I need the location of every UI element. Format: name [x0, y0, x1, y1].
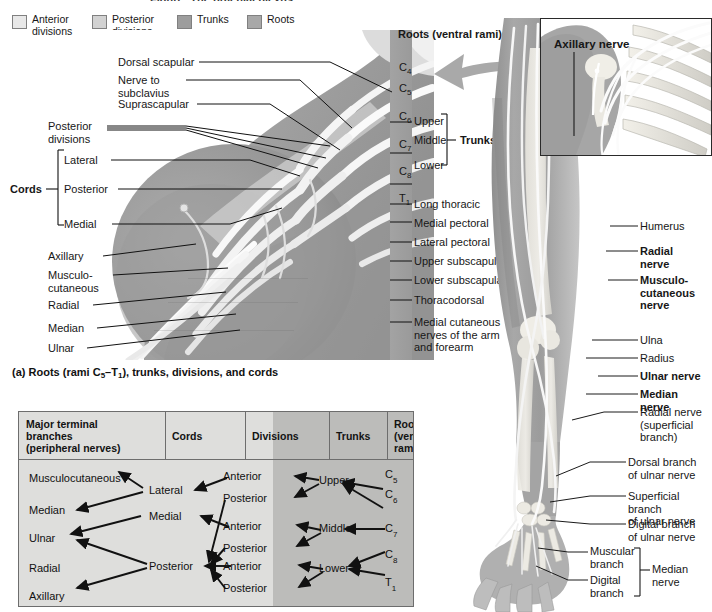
label-muscular-branch: Muscular branch — [590, 545, 635, 570]
root-c5: C5 — [399, 69, 411, 99]
node-axillary: Axillary — [29, 590, 64, 602]
trunk-middle: Middle — [414, 134, 446, 147]
label-radius: Radius — [640, 352, 674, 365]
node-medial-cord: Medial — [149, 510, 181, 522]
node-posterior-cord: Posterior — [149, 560, 193, 572]
node-root-c7: C7 — [385, 522, 397, 537]
node-trunk-upper: Upper — [319, 474, 349, 486]
legend-swatch-icon-anterior — [12, 15, 27, 29]
label-lateral-cord: Lateral — [64, 154, 98, 167]
root-c6-sub: 6 — [407, 116, 411, 125]
flowchart-arrows — [19, 412, 414, 607]
label-dorsal-branch-ulnar: Dorsal branch of ulnar nerve — [628, 456, 696, 481]
node-root-t1-base: T — [385, 576, 392, 588]
node-root-c7-sub: 7 — [393, 530, 397, 539]
root-t1-base: T — [399, 192, 406, 204]
node-root-c6-sub: 6 — [393, 496, 397, 505]
brachial-plexus-flowchart: Major terminal branches (peripheral nerv… — [18, 411, 414, 607]
caption-panel-a: (a) Roots (rami C5–T1), trunks, division… — [12, 366, 278, 378]
legend-label-anterior: Anterior divisions — [32, 14, 72, 37]
caption-a-prefix: (a) Roots (rami C — [12, 366, 101, 378]
node-musculocutaneous: Musculocutaneous — [29, 472, 121, 484]
node-root-c8-base: C — [385, 548, 393, 560]
node-lateral-cord: Lateral — [149, 484, 183, 496]
label-dorsal-scapular: Dorsal scapular — [118, 56, 194, 69]
node-division-anterior-2: Anterior — [223, 520, 262, 532]
label-ulnar-nerve: Ulnar nerve — [640, 370, 701, 383]
label-radial-nerve-superficial: Radial nerve (superficial branch) — [640, 406, 702, 444]
node-median: Median — [29, 504, 65, 516]
node-division-anterior-1: Anterior — [223, 470, 262, 482]
node-root-t1-sub: 1 — [392, 584, 396, 593]
legend-swatch-icon-roots — [247, 15, 262, 29]
node-root-c6-base: C — [385, 488, 393, 500]
label-radial: Radial — [48, 299, 79, 312]
node-root-c5-base: C — [385, 468, 393, 480]
label-humerus: Humerus — [640, 220, 685, 233]
root-c8: C8 — [399, 152, 411, 182]
legend-label-roots: Roots — [267, 14, 294, 26]
label-posterior-divisions: Posterior divisions — [48, 120, 92, 145]
node-root-c5-sub: 5 — [393, 476, 397, 485]
root-c7-base: C — [399, 138, 407, 150]
caption-a-sub2: 1 — [118, 371, 122, 380]
root-c7: C7 — [399, 125, 411, 155]
caption-a-sub1: 5 — [101, 371, 105, 380]
label-axillary-nerve: Axillary nerve — [554, 38, 629, 51]
root-c8-base: C — [399, 165, 407, 177]
root-t1-sub: 1 — [406, 198, 410, 207]
node-root-c8-sub: 8 — [393, 556, 397, 565]
legend-label-trunks: Trunks — [197, 14, 229, 26]
label-median-nerve-bracket: Median nerve — [652, 563, 688, 588]
cords-bracket-label: Cords — [10, 183, 42, 196]
label-median: Median — [48, 322, 84, 335]
legend-swatch-icon-trunks — [177, 15, 192, 29]
node-root-c5: C5 — [385, 468, 397, 483]
legend-item-anterior-divisions: Anterior divisions — [12, 14, 92, 40]
node-root-c6: C6 — [385, 488, 397, 503]
root-c5-sub: 5 — [407, 88, 411, 97]
node-division-posterior-1: Posterior — [223, 492, 267, 504]
node-division-posterior-3: Posterior — [223, 582, 267, 594]
label-digital-branch: Digital branch — [590, 574, 624, 599]
label-suprascapular: Suprascapular — [118, 98, 189, 111]
caption-a-mid: –T — [105, 366, 118, 378]
node-radial: Radial — [29, 562, 60, 574]
root-c6: C6 — [399, 97, 411, 127]
label-musculocutaneous-nerve: Musculo- cutaneous nerve — [640, 274, 695, 312]
label-posterior-cord: Posterior — [64, 183, 108, 196]
caption-a-suffix: ), trunks, divisions, and cords — [122, 366, 278, 378]
label-nerve-to-subclavius: Nerve to subclavius — [118, 74, 169, 99]
node-root-t1: T1 — [385, 576, 396, 591]
node-root-c8: C8 — [385, 548, 397, 563]
label-radial-nerve: Radial nerve — [640, 245, 673, 270]
label-axillary: Axillary — [48, 250, 83, 263]
label-ulna: Ulna — [640, 334, 663, 347]
legend-swatch-icon-posterior — [92, 15, 107, 29]
label-musculocutaneous: Musculo- cutaneous — [48, 269, 99, 294]
page-title: Figure: The brachial plexus — [150, 0, 570, 1]
trunk-upper: Upper — [414, 115, 444, 128]
root-t1: T1 — [399, 179, 410, 209]
node-trunk-lower: Lower — [319, 562, 349, 574]
node-ulnar: Ulnar — [29, 532, 55, 544]
node-division-posterior-2: Posterior — [223, 542, 267, 554]
root-c6-base: C — [399, 110, 407, 122]
node-root-c7-base: C — [385, 522, 393, 534]
node-division-anterior-3: Anterior — [223, 560, 262, 572]
root-c5-base: C — [399, 82, 407, 94]
node-trunk-middle: Middle — [319, 522, 351, 534]
label-medial-cord: Medial — [64, 218, 96, 231]
trunk-lower: Lower — [414, 159, 444, 172]
label-digital-branch-ulnar: Digital branch of ulnar nerve — [628, 518, 695, 543]
label-ulnar: Ulnar — [48, 342, 74, 355]
